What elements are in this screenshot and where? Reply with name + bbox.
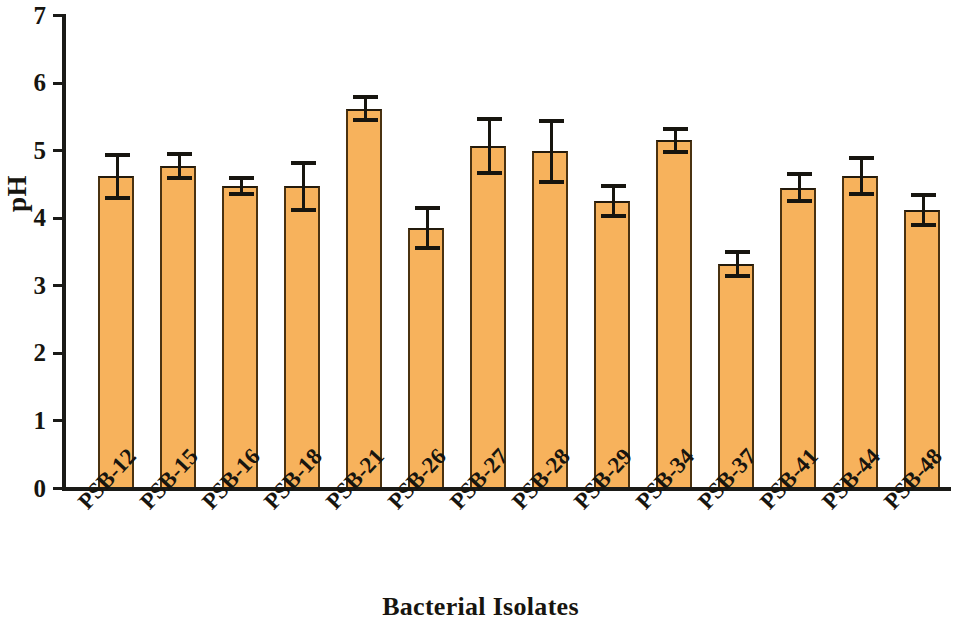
y-tick-label: 3 <box>34 273 47 298</box>
error-bar-cap-lower <box>663 150 688 154</box>
error-bar-cap-lower <box>415 246 440 250</box>
y-tick-label: 6 <box>34 70 47 95</box>
error-bar-cap-lower <box>787 199 812 203</box>
error-bar-cap-upper <box>353 95 378 99</box>
bar-slot <box>85 14 147 487</box>
bar-slot <box>209 14 271 487</box>
bar <box>532 151 568 487</box>
bar-slot <box>643 14 705 487</box>
error-bar-cap-upper <box>539 119 564 123</box>
error-bar-cap-upper <box>229 176 254 180</box>
error-bar-cap-upper <box>601 184 626 188</box>
error-bar-cap-lower <box>911 223 936 227</box>
y-tick-label: 5 <box>34 138 47 163</box>
bar-slot <box>457 14 519 487</box>
y-tick: 7 <box>53 14 62 17</box>
error-bar-line <box>116 155 119 198</box>
y-tick: 0 <box>53 487 62 490</box>
y-tick: 2 <box>53 352 62 355</box>
error-bar-line <box>364 97 367 120</box>
error-bar-cap-lower <box>167 176 192 180</box>
bar-slot <box>147 14 209 487</box>
y-axis-title: pH <box>2 175 33 212</box>
x-axis-title: Bacterial Isolates <box>0 592 961 622</box>
bar <box>470 146 506 487</box>
error-bar-cap-lower <box>477 171 502 175</box>
error-bar-line <box>488 119 491 173</box>
bar <box>346 109 382 487</box>
plot-area: 01234567 PSB-12PSB-15PSB-16PSB-18PSB-21P… <box>62 14 951 487</box>
y-tick-label: 0 <box>34 476 47 501</box>
error-bar-cap-lower <box>601 214 626 218</box>
y-tick: 3 <box>53 284 62 287</box>
error-bar-cap-lower <box>725 274 750 278</box>
error-bar-line <box>426 208 429 249</box>
bar <box>222 186 258 487</box>
y-tick-label: 1 <box>34 408 47 433</box>
bar-slot <box>271 14 333 487</box>
error-bar-cap-upper <box>415 206 440 210</box>
bar <box>284 186 320 487</box>
error-bar-cap-upper <box>167 152 192 156</box>
y-tick-label: 7 <box>34 3 47 28</box>
error-bar-cap-upper <box>911 193 936 197</box>
chart-figure: 01234567 PSB-12PSB-15PSB-16PSB-18PSB-21P… <box>0 0 961 624</box>
error-bar-line <box>612 186 615 216</box>
bar-slot <box>333 14 395 487</box>
error-bar-cap-upper <box>725 250 750 254</box>
bar <box>842 176 878 487</box>
error-bar-cap-upper <box>663 127 688 131</box>
bar <box>160 166 196 487</box>
error-bar-cap-lower <box>291 208 316 212</box>
error-bar-cap-lower <box>353 118 378 122</box>
bar <box>98 176 134 487</box>
error-bar-line <box>860 158 863 194</box>
y-axis-line <box>62 14 66 487</box>
bar-slot <box>519 14 581 487</box>
bar <box>904 210 940 487</box>
bar-slot <box>705 14 767 487</box>
bar <box>594 201 630 487</box>
bar <box>780 188 816 487</box>
error-bar-line <box>178 154 181 178</box>
error-bar-line <box>798 174 801 201</box>
bar-slot <box>891 14 953 487</box>
y-tick: 4 <box>53 217 62 220</box>
bar-slot <box>829 14 891 487</box>
y-tick: 1 <box>53 419 62 422</box>
error-bar-cap-lower <box>105 196 130 200</box>
y-tick-label: 2 <box>34 340 47 365</box>
error-bar-cap-upper <box>787 172 812 176</box>
bar-slot <box>767 14 829 487</box>
error-bar-cap-upper <box>477 117 502 121</box>
y-tick: 6 <box>53 82 62 85</box>
error-bar-line <box>674 129 677 152</box>
bar-slot <box>581 14 643 487</box>
error-bar-cap-upper <box>291 161 316 165</box>
bar <box>656 140 692 487</box>
bar-slot <box>395 14 457 487</box>
x-axis-line <box>62 487 951 491</box>
error-bar-cap-lower <box>849 192 874 196</box>
error-bar-cap-upper <box>105 153 130 157</box>
error-bar-cap-upper <box>849 156 874 160</box>
error-bar-line <box>302 163 305 210</box>
error-bar-line <box>922 195 925 225</box>
error-bar-cap-lower <box>229 192 254 196</box>
y-tick-label: 4 <box>34 205 47 230</box>
error-bar-line <box>736 252 739 276</box>
error-bar-cap-lower <box>539 180 564 184</box>
bar <box>408 228 444 487</box>
error-bar-line <box>550 121 553 182</box>
y-tick: 5 <box>53 149 62 152</box>
